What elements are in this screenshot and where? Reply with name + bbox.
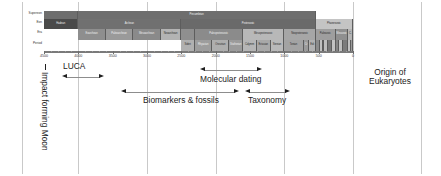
axis-minor-tick [92, 51, 93, 52]
timescale-cell-label: Proterozoic [242, 23, 255, 26]
timescale-cell [78, 40, 181, 51]
timescale-cell-label: Paleoproterozoic [209, 33, 228, 36]
gridline-left-border [22, 2, 23, 174]
timescale-cell: Mesoproterozoic [243, 29, 284, 40]
timescale-cell: C. [348, 29, 353, 40]
axis-minor-tick [271, 51, 272, 52]
timescale-cell: Proterozoic [181, 19, 316, 29]
row-label-period: Period [2, 42, 42, 45]
timescale-cell-label: Edi [310, 44, 314, 47]
axis-minor-tick [154, 51, 155, 52]
axis-minor-tick [126, 51, 127, 52]
timescale-row-eon: HadeanArcheanProterozoicPhanerozoic [44, 19, 353, 29]
timescale-cell: Calymm [243, 40, 257, 51]
axis-minor-tick [264, 51, 265, 52]
axis-minor-tick [243, 51, 244, 52]
axis-minor-tick [161, 51, 162, 52]
timescale-cell-label: Neoarchean [164, 33, 178, 36]
time-axis [44, 51, 353, 53]
axis-minor-tick [209, 51, 210, 52]
timescale-cell: Neoproterozoic [284, 29, 316, 40]
axis-minor-tick [257, 51, 258, 52]
timescale-cell: Paleoarchean [106, 29, 133, 40]
axis-minor-tick [85, 51, 86, 52]
axis-minor-tick [277, 51, 278, 52]
arrow-head-right-icon [99, 74, 104, 78]
arrow-head-left-icon [121, 89, 126, 93]
timescale-cell [351, 40, 353, 51]
luca-range-arrow [62, 74, 104, 80]
timescale-cell-label: Statherian [230, 44, 241, 47]
timescale-cell [44, 29, 78, 40]
timescale-cell: Orosirian [212, 40, 229, 51]
timescale-cell-label: Sideri [185, 44, 191, 47]
annotation-biomarkers-fossils: Biomarkers & fossils [143, 96, 219, 105]
axis-minor-tick [326, 51, 327, 52]
timescale-cell [44, 11, 78, 19]
timescale-cell-label: Precambrian [190, 14, 204, 17]
impact-marker-tick [45, 64, 47, 70]
timescale-cell: Ectasian [257, 40, 271, 51]
annotation-impact-forming-moon: Impact forming Moon [41, 72, 49, 151]
axis-minor-tick [236, 51, 237, 52]
timescale-cell-label: Archean [125, 23, 134, 26]
timescale-cell-label: Neoproterozoic [291, 33, 308, 36]
axis-tick-label: 4000 [74, 55, 82, 59]
timescale-bars: Precambrian HadeanArcheanProterozoicPhan… [44, 11, 353, 51]
axis-minor-tick [99, 51, 100, 52]
timescale-cell-label: Mesoarchean [139, 33, 154, 36]
axis-minor-tick [140, 51, 141, 52]
arrow-shaft [204, 70, 258, 71]
timescale-cell: Eoarchean [78, 29, 105, 40]
timescale-cell-label: Orosirian [215, 44, 225, 47]
timescale-cell-label: Eoarchean [86, 33, 98, 36]
arrow-shaft [249, 92, 286, 93]
timescale-cell-label: Paleozoic [320, 33, 331, 36]
axis-minor-tick [51, 51, 52, 52]
timescale-cell: Rhyacian [195, 40, 212, 51]
axis-tick-label: 500 [316, 55, 322, 59]
timescale-cell [44, 40, 78, 51]
axis-minor-tick [168, 51, 169, 52]
arrow-head-right-icon [234, 89, 239, 93]
timescale-cell-label: Stenian [273, 44, 281, 47]
axis-minor-tick [346, 51, 347, 52]
origin-of-eukaryotes-line2: Eukaryotes [369, 76, 411, 86]
timescale-cell: Paleoproterozoic [195, 29, 243, 40]
axis-minor-tick [188, 51, 189, 52]
timescale-row-period: SideriRhyacianOrosirianStatherianCalymmE… [44, 40, 353, 51]
arrow-shaft [66, 77, 100, 78]
axis-minor-tick [339, 51, 340, 52]
axis-minor-tick [332, 51, 333, 52]
timescale-row-era: EoarcheanPaleoarcheanMesoarcheanNeoarche… [44, 29, 353, 40]
axis-tick-label: 4500 [40, 55, 48, 59]
row-label-eon: Eon [2, 21, 42, 24]
timescale-cell: Statherian [229, 40, 243, 51]
arrow-head-left-icon [200, 67, 205, 71]
timescale-cell: Stenian [271, 40, 285, 51]
row-label-supereon: Supereon [2, 12, 42, 15]
timescale-cell-label: Mesoproterozoic [254, 33, 272, 36]
axis-tick-label: 2000 [212, 55, 220, 59]
timescale-cell [316, 11, 353, 19]
timescale-cell: Phanerozoic [316, 19, 353, 29]
axis-minor-tick [229, 51, 230, 52]
axis-tick-label: 3500 [109, 55, 117, 59]
axis-minor-tick [58, 51, 59, 52]
timescale-cell-label: Phanerozoic [327, 23, 341, 26]
timescale-cell: Precambrian [78, 11, 316, 19]
timescale-cell: Hadean [44, 19, 78, 29]
axis-minor-tick [298, 51, 299, 52]
timescale-cell: Archean [78, 19, 181, 29]
timescale-cell: Tonian [284, 40, 303, 51]
axis-minor-tick [312, 51, 313, 52]
annotation-origin-of-eukaryotes: Origin of Eukaryotes [362, 68, 418, 87]
molecular-dating-range-arrow [200, 67, 262, 73]
timescale-cell: Paleozoic [316, 29, 336, 40]
arrow-head-left-icon [62, 74, 67, 78]
annotation-luca: LUCA [63, 62, 85, 71]
timescale-cell-label: Paleoarchean [111, 33, 126, 36]
axis-minor-tick [305, 51, 306, 52]
axis-minor-tick [120, 51, 121, 52]
annotation-taxonomy: Taxonomy [248, 96, 286, 105]
